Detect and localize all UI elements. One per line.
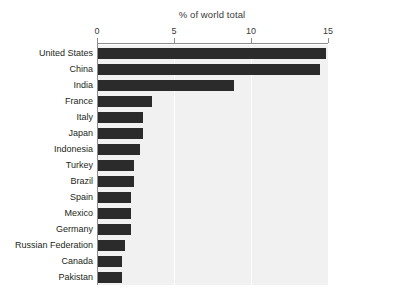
category-label: United States [0, 48, 93, 59]
x-tick-mark [328, 38, 329, 43]
category-label: Indonesia [0, 144, 93, 155]
category-label: Brazil [0, 176, 93, 187]
x-axis-line [97, 43, 328, 44]
category-label: Russian Federation [0, 240, 93, 251]
category-label: Mexico [0, 208, 93, 219]
bar [97, 224, 131, 235]
category-label: Pakistan [0, 272, 93, 283]
y-axis-line [97, 43, 98, 285]
bar [97, 128, 143, 139]
bars-layer [97, 45, 328, 285]
bar [97, 80, 234, 91]
category-label: India [0, 80, 93, 91]
bar [97, 48, 326, 59]
plot-area [97, 45, 328, 285]
bar [97, 176, 134, 187]
x-tick-label: 15 [323, 26, 333, 36]
x-tick-label: 10 [246, 26, 256, 36]
x-tick-label: 0 [94, 26, 99, 36]
chart-title: % of world total [97, 9, 327, 20]
bar-chart: % of world total 051015 United StatesChi… [0, 0, 399, 304]
bar [97, 208, 131, 219]
x-tick-label: 5 [171, 26, 176, 36]
category-label: Japan [0, 128, 93, 139]
category-label: France [0, 96, 93, 107]
y-axis-category-labels: United StatesChinaIndiaFranceItalyJapanI… [0, 45, 93, 285]
category-label: Turkey [0, 160, 93, 171]
category-label: Italy [0, 112, 93, 123]
bar [97, 160, 134, 171]
bar [97, 112, 143, 123]
bar [97, 256, 122, 267]
bar [97, 144, 140, 155]
category-label: Spain [0, 192, 93, 203]
category-label: China [0, 64, 93, 75]
bar [97, 272, 122, 283]
bar [97, 96, 152, 107]
category-label: Germany [0, 224, 93, 235]
category-label: Canada [0, 256, 93, 267]
bar [97, 64, 320, 75]
gridline [328, 45, 329, 285]
bar [97, 192, 131, 203]
bar [97, 240, 125, 251]
